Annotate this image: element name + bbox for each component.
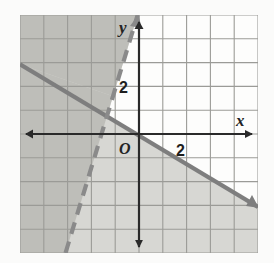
x-axis-label: x: [236, 112, 245, 129]
origin-label: O: [119, 141, 131, 157]
graph-figure: y x O 2 2: [0, 0, 274, 263]
y-axis-label: y: [119, 19, 127, 36]
x-axis-tick-label-2: 2: [176, 143, 185, 159]
coordinate-plane-svg: [0, 0, 274, 263]
y-axis-tick-label-2: 2: [119, 80, 128, 96]
